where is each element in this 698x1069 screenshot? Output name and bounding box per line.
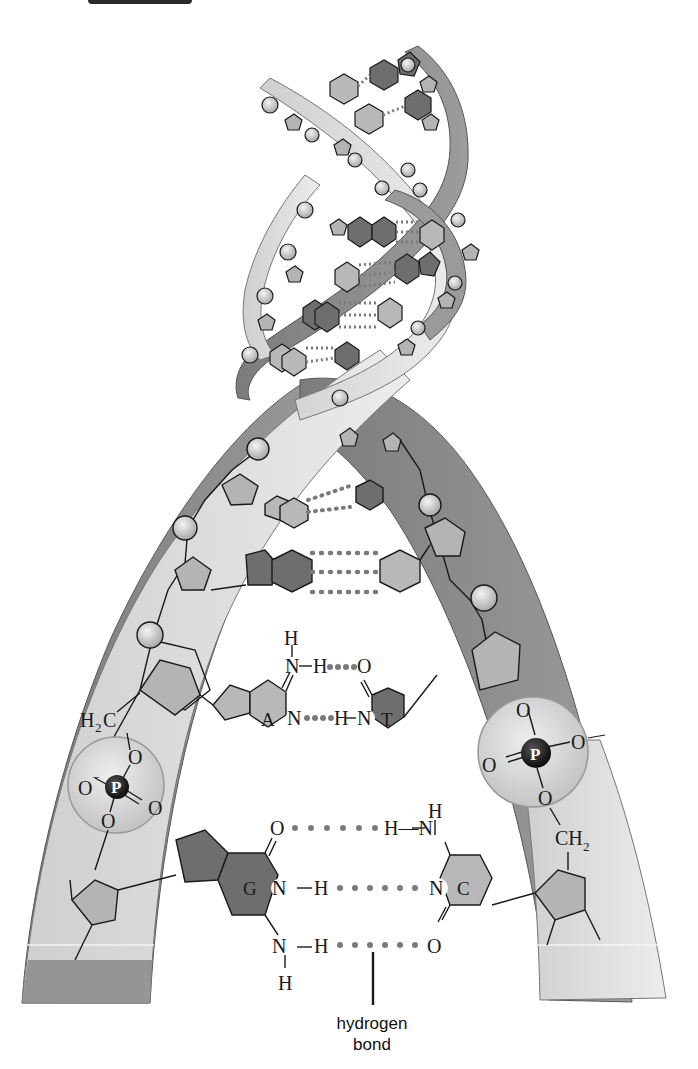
- phos-right-o-bottom: O: [538, 787, 552, 809]
- at-h-t: H: [334, 707, 348, 729]
- base-label-c: C: [457, 878, 470, 899]
- phos-left-o-double: O: [148, 797, 162, 819]
- hbond-gc-1: [292, 825, 378, 831]
- at-o-t: O: [357, 655, 371, 677]
- gc-n-g: N: [272, 877, 286, 899]
- hbond-gc-2: [337, 885, 418, 891]
- phos-right-o-double: O: [482, 754, 496, 776]
- base-label-t: T: [381, 709, 393, 730]
- hbond-at-1: [327, 664, 357, 670]
- phosphorus-right: P: [530, 745, 540, 764]
- h2c-c: C: [103, 709, 116, 731]
- caption-line-1: hydrogen: [322, 1013, 422, 1034]
- gc-n-amino: N: [272, 935, 286, 957]
- phos-left-o-minus: O: [78, 777, 92, 799]
- phos-left-o-bottom: O: [101, 810, 115, 832]
- at-n-ring: N: [287, 707, 301, 729]
- gc-h-amino: H: [314, 935, 328, 957]
- dna-diagram: H N H O N H N A T P O O − O O H 2 C: [0, 0, 698, 1069]
- hbond-gc-3: [337, 942, 418, 948]
- gc-o-c: O: [427, 935, 441, 957]
- phos-left-o-top: O: [128, 746, 142, 768]
- ch2-ch: CH: [555, 827, 583, 849]
- gc-hn-c: H—N: [384, 817, 433, 839]
- hbond-at-2: [304, 715, 334, 721]
- h2c-sub: 2: [95, 720, 102, 735]
- caption-line-2: bond: [322, 1034, 422, 1055]
- at-h-amino: H: [313, 655, 327, 677]
- phos-left-minus-sign: −: [92, 770, 99, 785]
- gc-o-g: O: [270, 817, 284, 839]
- gc-n-c: N: [429, 877, 443, 899]
- at-h-top: H: [284, 627, 298, 649]
- phos-right-o-right: O: [571, 731, 585, 753]
- hydrogen-bond-label: hydrogen bond: [322, 1013, 422, 1055]
- gc-h-top: H: [428, 800, 442, 822]
- gc-h-g: H: [314, 877, 328, 899]
- ch2-sub: 2: [583, 839, 590, 854]
- base-label-a: A: [261, 709, 275, 730]
- at-n-t: N: [357, 707, 371, 729]
- phos-right-o-top: O: [516, 699, 530, 721]
- at-n-amino: N: [285, 655, 299, 677]
- phosphorus-left: P: [111, 778, 121, 797]
- base-label-g: G: [243, 878, 257, 899]
- gc-h-bottom: H: [278, 972, 292, 994]
- h2c-h: H: [80, 709, 94, 731]
